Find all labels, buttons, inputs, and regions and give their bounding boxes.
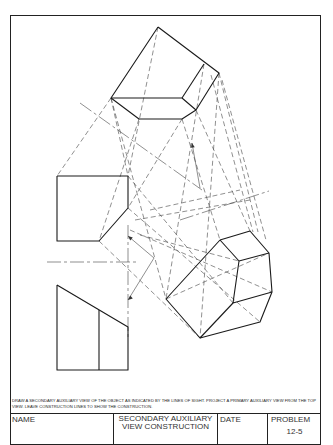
construction-line (111, 98, 166, 299)
sight-arrow-lower-icon (128, 296, 133, 300)
construction-line (196, 110, 250, 231)
construction-line (57, 98, 111, 176)
construction-line (150, 190, 240, 210)
title-line-2: VIEW CONSTRUCTION (114, 423, 217, 431)
center-lines (47, 103, 269, 340)
projection-line (192, 143, 200, 188)
top-view-edge-b (182, 64, 204, 98)
problem-field: PROBLEM 12-5 (267, 414, 321, 444)
center-line (180, 191, 269, 220)
problem-number: 12-5 (271, 427, 318, 436)
sight-arrows (128, 143, 195, 300)
problem-label: PROBLEM (271, 415, 310, 424)
front-view-pentagon (57, 176, 128, 241)
aux-view-outline (166, 231, 272, 338)
construction-line (166, 253, 269, 299)
construction-line (200, 73, 219, 338)
construction-line (128, 119, 182, 208)
title-block: NAME SECONDARY AUXILIARY VIEW CONSTRUCTI… (10, 413, 321, 444)
sight-arrow-top-icon (191, 143, 195, 148)
aux-view-edge-d (200, 303, 233, 338)
center-line (80, 103, 202, 190)
drawing-title: SECONDARY AUXILIARY VIEW CONSTRUCTION (113, 414, 217, 444)
date-label: DATE (220, 415, 241, 424)
construction-line (128, 208, 260, 322)
construction-line (99, 119, 139, 241)
object-views (57, 27, 272, 370)
construction-line (219, 73, 258, 232)
side-view-trapezoid (57, 285, 128, 370)
line-of-sight-lines (128, 143, 200, 300)
construction-line (222, 80, 266, 240)
construction-line (99, 241, 200, 338)
name-label: NAME (12, 415, 35, 424)
projection-line (128, 258, 154, 300)
problem-instructions: Draw a secondary auxiliary view of the o… (12, 398, 318, 410)
construction-line (211, 75, 253, 232)
construction-lines (57, 27, 272, 338)
date-field[interactable]: DATE (217, 414, 267, 444)
name-field[interactable]: NAME (10, 414, 113, 444)
projection-line (128, 236, 154, 258)
construction-line (111, 98, 128, 176)
